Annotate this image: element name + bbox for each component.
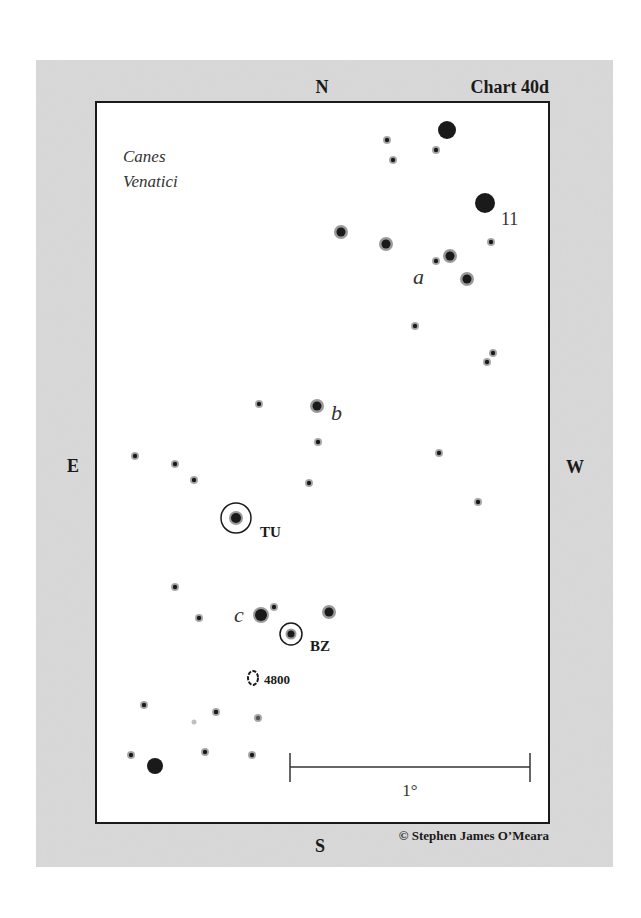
copyright: © Stephen James O’Meara (399, 828, 550, 843)
star-icon (432, 257, 440, 265)
star-icon (474, 498, 482, 506)
compass-south: S (315, 836, 325, 856)
star-icon (270, 603, 278, 611)
star-icon (127, 751, 135, 759)
star-icon (255, 400, 263, 408)
star-icon (192, 720, 197, 725)
star-icon (171, 460, 179, 468)
star-icon (379, 237, 393, 251)
label-c: c (234, 602, 244, 627)
label-tu: TU (260, 524, 281, 540)
compass-east: E (67, 456, 79, 476)
finder-chart: N Chart 40d E W S © Stephen James O’Mear… (0, 0, 641, 918)
star-icon (195, 614, 203, 622)
star-icon (314, 438, 322, 446)
star-icon (389, 156, 397, 164)
star-icon (475, 193, 495, 213)
star-icon (443, 249, 457, 263)
label-11: 11 (501, 209, 518, 229)
star-icon (131, 452, 139, 460)
constellation-name-line1: Canes (123, 147, 166, 166)
star-icon (212, 708, 220, 716)
label-b: b (331, 400, 342, 425)
star-icon (254, 714, 262, 722)
star-icon (322, 605, 336, 619)
star-icon (487, 238, 495, 246)
star-icon (248, 751, 256, 759)
label-a: a (413, 264, 424, 289)
star-icon (460, 272, 474, 286)
star-icon (383, 136, 391, 144)
constellation-name-line2: Venatici (123, 172, 178, 191)
star-icon (411, 322, 419, 330)
star-icon (140, 701, 148, 709)
star-icon (489, 349, 497, 357)
scale-bar-label: 1° (402, 781, 417, 800)
star-icon (305, 479, 313, 487)
star-icon (171, 583, 179, 591)
label-bz: BZ (310, 638, 330, 654)
star-icon (201, 748, 209, 756)
star-icon (190, 476, 198, 484)
star-icon (438, 121, 456, 139)
compass-north: N (316, 77, 329, 97)
star-icon (310, 399, 324, 413)
star-icon (483, 358, 491, 366)
star-icon (147, 758, 163, 774)
star-icon (253, 607, 269, 623)
star-icon (435, 449, 443, 457)
star-icon (432, 146, 440, 154)
compass-west: W (566, 457, 584, 477)
chart-title: Chart 40d (470, 77, 549, 97)
star-icon (334, 225, 348, 239)
label-4800: 4800 (264, 672, 290, 687)
